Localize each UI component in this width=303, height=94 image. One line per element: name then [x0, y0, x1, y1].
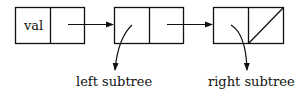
null-slash-icon — [249, 8, 284, 44]
cell-3 — [214, 8, 284, 44]
val-label: val — [23, 18, 43, 33]
cell-1: val — [16, 8, 85, 44]
left-subtree-label: left subtree — [76, 74, 153, 89]
right-subtree-label: right subtree — [208, 74, 295, 89]
linked-list-diagram: val left subtree right subtree — [0, 0, 303, 94]
right-subtree-arrow — [231, 25, 247, 70]
cell-2 — [115, 8, 184, 44]
left-subtree-arrow — [115, 25, 132, 70]
